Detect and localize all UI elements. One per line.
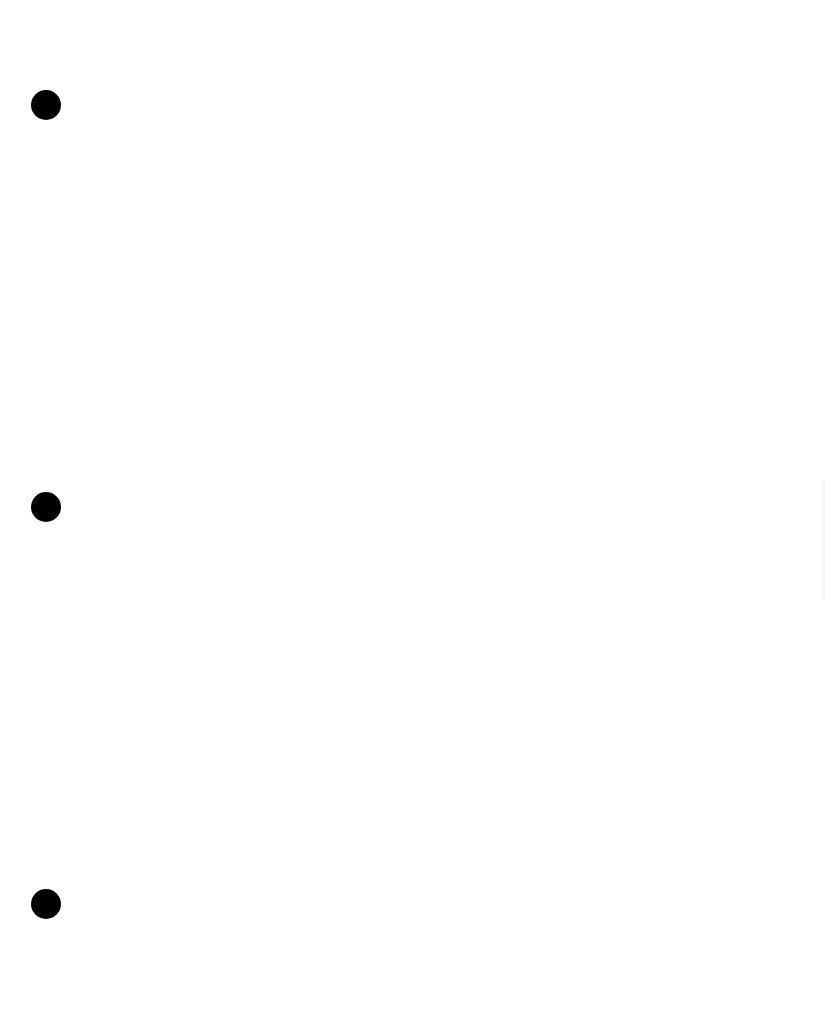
punch-hole-2	[31, 492, 61, 522]
punch-hole-3	[31, 889, 61, 919]
page-edge-shadow	[821, 480, 825, 600]
blank-page	[0, 0, 825, 1011]
punch-hole-1	[31, 90, 61, 120]
